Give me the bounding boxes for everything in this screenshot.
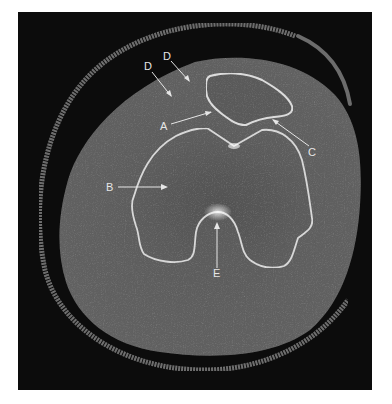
label-c: C bbox=[308, 146, 316, 158]
ct-image: D D A C B E bbox=[0, 0, 392, 404]
label-d1: D bbox=[144, 60, 152, 72]
ct-figure: D D A C B E bbox=[0, 0, 392, 404]
trochlea-highlight bbox=[228, 143, 240, 149]
notch-glow bbox=[204, 203, 232, 221]
label-b: B bbox=[106, 181, 113, 193]
label-d2: D bbox=[163, 50, 171, 62]
label-a: A bbox=[160, 120, 168, 132]
label-e: E bbox=[213, 267, 220, 279]
